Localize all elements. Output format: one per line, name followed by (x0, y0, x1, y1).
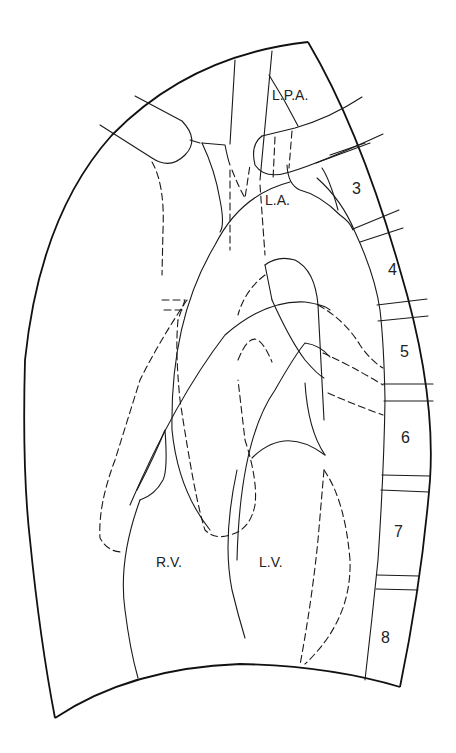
label-left-pulmonary-artery: L.P.A. (272, 88, 308, 102)
right-ventricle (100, 300, 256, 678)
left-pulmonary-artery (130, 258, 383, 505)
rib-label-3: 3 (352, 181, 361, 197)
left-atrium (237, 300, 330, 560)
rib-label-8: 8 (381, 630, 390, 646)
left-ventricle (228, 470, 350, 665)
rib-label-5: 5 (400, 344, 409, 360)
aorta (172, 182, 290, 530)
label-left-ventricle: L.V. (259, 555, 283, 569)
rib-label-4: 4 (388, 262, 397, 278)
label-left-atrium: L.A. (265, 193, 290, 207)
rib-label-7: 7 (394, 524, 403, 540)
rib-label-6: 6 (401, 430, 410, 446)
great-vessels (100, 51, 383, 275)
label-right-ventricle: R.V. (156, 555, 182, 569)
